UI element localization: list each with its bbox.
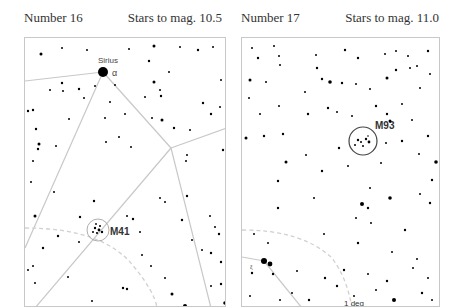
chart-magnitude-label: Stars to mag. 10.5 <box>128 10 222 26</box>
m93-label: M93 <box>375 120 395 131</box>
star-field: Sirius α M41 <box>25 38 226 307</box>
declination-arc <box>25 228 157 307</box>
double-star-icon <box>261 258 267 264</box>
alpha-label: α <box>112 68 117 78</box>
star-chart-16: Sirius α M41 <box>24 37 226 307</box>
m93-cluster-circle-icon <box>349 127 377 155</box>
chart-magnitude-label: Stars to mag. 11.0 <box>345 10 439 26</box>
constellation-lines <box>25 72 226 307</box>
scale-label: 1 deg <box>344 299 364 307</box>
stars <box>245 45 438 302</box>
star-chart-17: M93 ξ 1 deg <box>241 37 440 307</box>
sirius-star-icon <box>98 67 108 77</box>
declination-arc <box>242 230 352 307</box>
m41-label: M41 <box>110 226 130 237</box>
chart-number-label: Number 16 <box>24 10 83 26</box>
sirius-label: Sirius <box>98 56 118 65</box>
chart-number-label: Number 17 <box>241 10 300 26</box>
double-star-label: ξ <box>250 264 253 270</box>
star-field: M93 ξ 1 deg <box>242 38 440 307</box>
